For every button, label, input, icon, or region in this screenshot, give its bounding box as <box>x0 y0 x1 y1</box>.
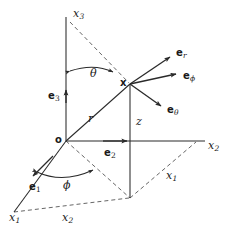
vector-label-e2: e2 <box>104 148 116 160</box>
vector-label-etheta: eθ <box>167 105 179 117</box>
axis-label-x2-bottom: x2 <box>62 212 73 225</box>
measure-label-r: r <box>88 113 93 124</box>
dashed-origin-to-projection <box>66 141 130 198</box>
vector-label-er: er <box>176 48 187 60</box>
measure-label-z: z <box>136 116 142 127</box>
angle-phi-arc <box>37 170 93 178</box>
axis-label-x3: x3 <box>73 8 84 21</box>
axis-label-x2-right: x2 <box>208 140 219 153</box>
axis-label-x1-bottomleft: x1 <box>9 212 20 225</box>
dashed-base-bottom <box>14 198 129 212</box>
axis-x1 <box>14 141 66 212</box>
vector-label-ephi: eϕ <box>183 71 195 83</box>
dashed-projection-to-x2 <box>130 142 196 198</box>
vector-e-theta-arrow <box>130 84 161 106</box>
vector-label-e1: e1 <box>29 182 41 194</box>
axis-label-x1-diagonal: x1 <box>166 170 177 183</box>
dashed-x3-to-point <box>70 22 129 83</box>
segment-r-radius <box>66 84 130 141</box>
spherical-coordinates-diagram: x3 x2 x1 x1 x2 o x e3 e2 e1 er eϕ eθ r z… <box>0 0 228 227</box>
point-label-origin: o <box>55 135 62 145</box>
angle-label-phi: ϕ <box>63 180 71 191</box>
vector-label-e3: e3 <box>48 91 60 103</box>
point-label-x: x <box>120 78 126 88</box>
angle-label-theta: θ <box>90 68 97 79</box>
